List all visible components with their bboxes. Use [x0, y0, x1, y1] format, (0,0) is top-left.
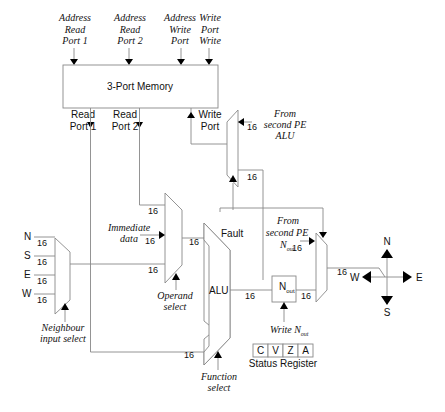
svg-text:ALU: ALU: [275, 130, 296, 141]
svg-text:16: 16: [145, 236, 155, 246]
svg-text:16: 16: [247, 172, 257, 182]
memory-label: 3-Port Memory: [107, 81, 173, 92]
svg-text:Write: Write: [199, 35, 221, 46]
three-port-memory: 3-Port Memory: [63, 65, 218, 108]
arrow-left-icon: [238, 118, 244, 126]
input-s-label: S: [24, 250, 31, 261]
svg-text:Address: Address: [163, 12, 196, 23]
input-w-label: W: [22, 288, 32, 299]
read-port-1-label: Read: [71, 109, 95, 120]
operand-mux: [165, 193, 182, 283]
immediate-data-label: Immediate: [107, 222, 151, 233]
arrow-up-icon: [187, 112, 195, 118]
operand-select-label: Operand: [157, 290, 194, 301]
svg-text:16: 16: [247, 122, 257, 132]
svg-text:16: 16: [189, 237, 199, 247]
input-address-write-port: Address Write Port: [163, 12, 196, 65]
compass-output: N S E W: [350, 236, 423, 318]
write-port-label: Write: [198, 109, 222, 120]
from-second-pe-nout-label: From: [276, 215, 299, 226]
arrow-right-icon: [159, 231, 165, 239]
svg-text:Address: Address: [58, 12, 91, 23]
svg-text:Port: Port: [200, 24, 219, 35]
svg-text:W: W: [350, 272, 360, 283]
read-port-2-label: Read: [113, 109, 137, 120]
arrow-down-icon: [205, 59, 213, 65]
svg-text:second PE: second PE: [266, 227, 309, 238]
nout-register: Nout: [272, 276, 296, 302]
input-write-port-write: Write Port Write: [199, 12, 221, 65]
svg-text:select: select: [164, 301, 187, 312]
svg-text:16: 16: [292, 243, 302, 253]
pe-architecture-diagram: Address Read Port 1 Address Read Port 2 …: [0, 0, 445, 412]
svg-text:E: E: [416, 272, 423, 283]
neighbour-inputs: N 16 S 16 E 16 W 16: [22, 231, 55, 305]
flag-v: V: [272, 345, 279, 356]
svg-text:Address: Address: [113, 12, 146, 23]
svg-text:N: N: [383, 236, 390, 247]
svg-text:Read: Read: [64, 24, 87, 35]
input-n-label: N: [24, 231, 31, 242]
svg-text:S: S: [384, 307, 391, 318]
write-nout-label: Write Nout: [270, 324, 309, 337]
svg-text:input select: input select: [40, 333, 86, 344]
svg-text:16: 16: [184, 350, 194, 360]
output-mux: [316, 233, 327, 302]
arrow-up-icon: [280, 302, 288, 309]
input-e-label: E: [24, 269, 31, 280]
svg-text:16: 16: [148, 206, 158, 216]
svg-text:Write: Write: [199, 12, 221, 23]
arrow-south-icon: [381, 296, 393, 305]
from-second-pe-alu-label: From: [273, 108, 296, 119]
neighbour-input-select-label: Neighbour: [41, 322, 85, 333]
svg-text:Port 1: Port 1: [61, 35, 87, 46]
svg-text:16: 16: [37, 257, 47, 267]
svg-text:Port: Port: [170, 35, 189, 46]
svg-text:16: 16: [301, 291, 311, 301]
arrow-west-icon: [362, 271, 371, 283]
write-back-mux: [227, 110, 238, 187]
svg-text:Port 2: Port 2: [112, 121, 139, 132]
svg-text:Write: Write: [169, 24, 191, 35]
neighbour-input-mux: [55, 238, 70, 314]
svg-text:data: data: [120, 233, 138, 244]
arrow-down-icon: [177, 59, 185, 65]
svg-text:second PE: second PE: [264, 119, 307, 130]
svg-text:select: select: [208, 382, 231, 393]
svg-text:Port 2: Port 2: [116, 35, 142, 46]
svg-text:Port: Port: [201, 121, 220, 132]
arrow-right-icon: [309, 237, 315, 245]
flag-c: C: [257, 345, 264, 356]
svg-text:16: 16: [37, 238, 47, 248]
arrow-down-icon: [125, 59, 133, 65]
arrow-north-icon: [381, 249, 393, 258]
memory-address-inputs: Address Read Port 1 Address Read Port 2 …: [58, 12, 221, 65]
svg-text:Read: Read: [119, 24, 142, 35]
flag-a: A: [302, 345, 309, 356]
arrow-east-icon: [403, 271, 412, 283]
input-address-read-port-1: Address Read Port 1: [58, 12, 91, 65]
svg-text:16: 16: [245, 291, 255, 301]
svg-text:16: 16: [337, 267, 347, 277]
function-select-label: Function: [200, 371, 237, 382]
flag-z: Z: [287, 345, 293, 356]
svg-text:16: 16: [148, 265, 158, 275]
fault-label: Fault: [221, 228, 243, 239]
svg-text:16: 16: [37, 295, 47, 305]
status-register-label: Status Register: [249, 358, 318, 369]
alu-label: ALU: [209, 285, 228, 296]
status-register: C V Z A Status Register: [249, 344, 318, 369]
input-address-read-port-2: Address Read Port 2: [113, 12, 146, 65]
arrow-down-icon: [70, 59, 78, 65]
svg-text:16: 16: [37, 276, 47, 286]
